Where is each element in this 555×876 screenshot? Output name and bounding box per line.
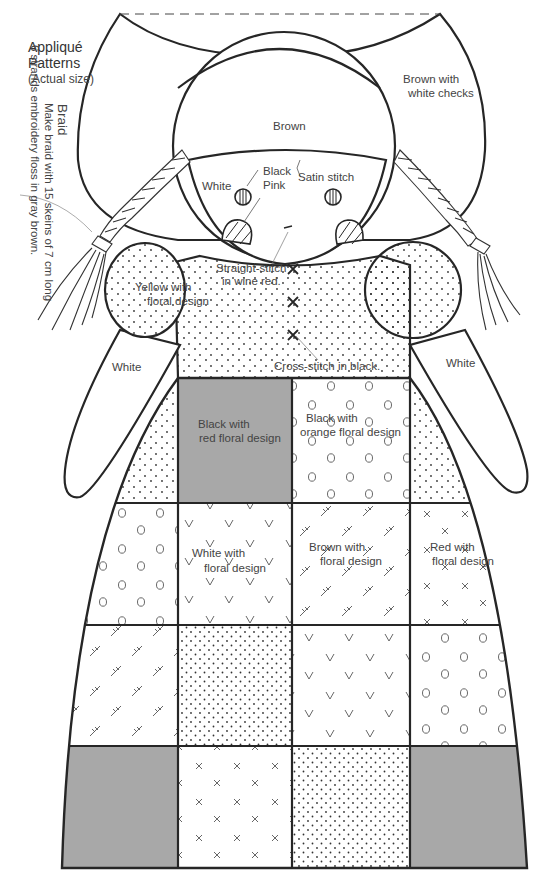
label-patch-red-1: Red with — [430, 541, 475, 554]
label-patch-white-2: floral design — [204, 562, 266, 575]
label-arm-right: White — [446, 357, 475, 370]
label-bonnet-brim-2: white checks — [408, 87, 474, 100]
label-hair: Brown — [273, 120, 306, 133]
eye-left — [235, 189, 251, 205]
braid-note-line-2: 6 strands embroidery floss in gray brown… — [29, 45, 41, 255]
label-arm-left: White — [112, 361, 141, 374]
label-patch-black-orange-1: Black with — [306, 412, 358, 425]
label-mouth-2: in wine red. — [222, 275, 281, 288]
label-face: White — [202, 180, 231, 193]
label-sleeve-2: floral design — [147, 295, 209, 308]
label-patch-white-1: White with — [192, 547, 245, 560]
label-patch-black-orange-2: orange floral design — [300, 426, 401, 439]
label-patch-red-2: floral design — [432, 555, 494, 568]
label-cheeks: Pink — [263, 179, 285, 192]
cheek-right — [336, 220, 363, 244]
label-cross-stitch: Cross-stitch in black. — [274, 360, 380, 373]
label-bonnet-brim-1: Brown with — [403, 73, 459, 86]
braid-note-line-1: Make braid with 15 skeins of 7 cm long — [43, 103, 55, 301]
sleeve-right — [365, 242, 461, 338]
label-satin-stitch: Satin stitch — [298, 171, 354, 184]
label-patch-black-red-2: red floral design — [199, 432, 281, 445]
label-patch-brown-1: Brown with — [309, 541, 365, 554]
label-patch-black-red-1: Black with — [198, 418, 250, 431]
braid-heading: Braid — [55, 104, 70, 136]
label-mouth-1: Straight-stitch — [216, 262, 286, 275]
eye-right — [325, 189, 341, 205]
label-sleeve-1: Yellow with — [135, 281, 191, 294]
label-patch-brown-2: floral design — [320, 555, 382, 568]
label-eyes: Black — [263, 165, 291, 178]
